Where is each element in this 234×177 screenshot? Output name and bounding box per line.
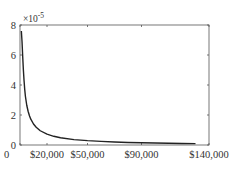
x-tick-label: $50,000 <box>70 149 104 160</box>
plot-frame <box>20 25 209 145</box>
y-tick-label: 8 <box>11 20 16 31</box>
y-tick-label: 6 <box>11 50 16 61</box>
x-tick-label: $140,000 <box>189 149 228 160</box>
x-tick-label: $90,000 <box>124 149 158 160</box>
y-tick-label: 4 <box>11 80 17 91</box>
series-line-density <box>21 31 195 144</box>
y-multiplier-label: ×10-5 <box>23 11 44 24</box>
x-tick-label: $20,000 <box>30 149 64 160</box>
y-tick-label: 2 <box>11 110 16 121</box>
y-multiplier-exponent: -5 <box>38 11 44 20</box>
x-tick-label: 0 <box>4 149 9 160</box>
y-tick-label: 0 <box>11 140 16 151</box>
y-multiplier-base: ×10 <box>23 14 38 24</box>
chart: 0$20,000$50,000$90,000$140,00002468×10-5 <box>0 0 234 177</box>
